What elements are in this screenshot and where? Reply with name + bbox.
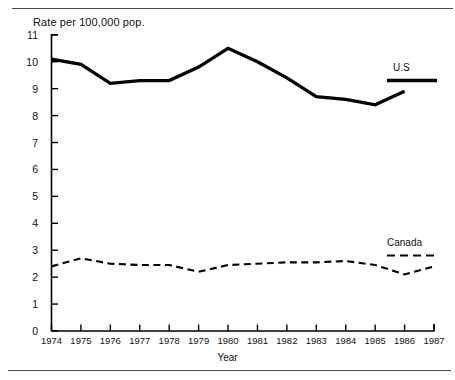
y-tick-label: 5 [16, 191, 38, 201]
y-tick-label: 4 [16, 218, 38, 228]
y-tick-label: 3 [16, 245, 38, 255]
y-tick-label: 8 [16, 111, 38, 121]
y-tick-label: 10 [16, 57, 38, 67]
y-tick-label: 0 [16, 326, 38, 336]
plot-area [0, 0, 455, 380]
y-tick-label: 11 [16, 30, 38, 40]
x-axis-ticks [52, 325, 435, 332]
legend-marks [387, 81, 437, 256]
data-series [52, 48, 435, 274]
legend-label-canada: Canada [387, 237, 422, 248]
series-line-us [52, 48, 405, 105]
y-tick-label: 2 [16, 272, 38, 282]
y-tick-label: 6 [16, 164, 38, 174]
y-axis-ticks [52, 35, 59, 331]
series-line-canada [52, 258, 435, 274]
chart-figure: Rate per 100,000 pop. 01234567891011 197… [0, 0, 455, 380]
x-tick-label: 1987 [417, 336, 451, 346]
legend-label-us: U.S [393, 62, 410, 73]
y-tick-label: 9 [16, 84, 38, 94]
axis-lines [51, 34, 435, 331]
bottom-divider [8, 370, 451, 371]
y-tick-label: 1 [16, 299, 38, 309]
x-axis-label: Year [0, 352, 455, 363]
y-tick-label: 7 [16, 138, 38, 148]
